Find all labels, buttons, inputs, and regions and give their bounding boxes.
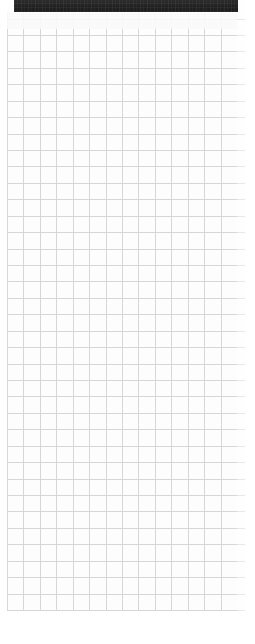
- left-gutter: [0, 0, 7, 644]
- app-window: [0, 0, 255, 644]
- dark-toolbar[interactable]: [14, 0, 238, 12]
- right-margin: [245, 0, 255, 644]
- spreadsheet-grid[interactable]: [7, 13, 237, 611]
- grid-right-bleed: [237, 13, 245, 611]
- bottom-blank-area: [0, 611, 255, 644]
